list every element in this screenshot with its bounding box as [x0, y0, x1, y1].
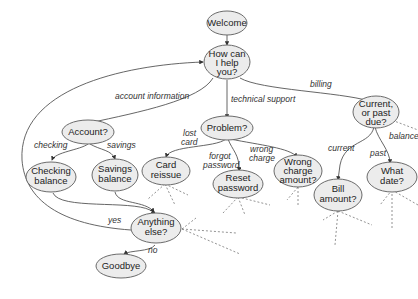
svg-text:account information: account information — [115, 91, 189, 101]
svg-text:Goodbye: Goodbye — [102, 260, 141, 271]
svg-text:amount?: amount? — [280, 174, 317, 185]
svg-text:checking: checking — [34, 140, 68, 150]
svg-text:savings: savings — [107, 140, 137, 150]
node-card-reissue: Card reissue — [142, 157, 190, 185]
svg-text:charge: charge — [249, 153, 275, 163]
svg-text:card: card — [181, 137, 198, 147]
svg-text:amount?: amount? — [320, 193, 357, 204]
node-anything-else: Anything else? — [131, 213, 181, 243]
svg-text:technical support: technical support — [231, 94, 296, 104]
svg-text:password: password — [202, 160, 240, 170]
svg-text:Problem?: Problem? — [207, 122, 248, 133]
svg-text:Account?: Account? — [68, 126, 108, 137]
node-bill-amount: Bill amount? — [314, 179, 362, 211]
svg-text:no: no — [148, 245, 158, 255]
node-goodbye: Goodbye — [96, 254, 146, 278]
node-account: Account? — [62, 120, 114, 144]
node-checking-balance: Checking balance — [26, 162, 76, 192]
svg-text:date?: date? — [380, 175, 404, 186]
node-problem: Problem? — [201, 116, 253, 140]
edge-checking-anything — [53, 193, 155, 213]
svg-text:yes: yes — [107, 215, 122, 225]
node-how-can-i-help: How can I help you? — [204, 45, 250, 79]
svg-text:password: password — [218, 182, 259, 193]
svg-text:due?: due? — [365, 116, 386, 127]
node-savings-balance: Savings balance — [92, 159, 138, 191]
svg-text:balance: balance — [34, 175, 67, 186]
svg-text:current: current — [328, 143, 355, 153]
svg-text:past: past — [369, 148, 387, 158]
node-reset-password: Reset password — [213, 170, 263, 198]
svg-text:you?: you? — [217, 66, 238, 77]
node-welcome: Welcome — [207, 11, 247, 35]
svg-text:billing: billing — [310, 79, 332, 89]
svg-text:Welcome: Welcome — [207, 17, 246, 28]
svg-text:balance: balance — [98, 173, 131, 184]
svg-text:else?: else? — [145, 226, 168, 237]
svg-text:balance: balance — [389, 131, 418, 141]
node-current-or-past-due: Current, or past due? — [353, 96, 399, 128]
node-wrong-charge-amount: Wrong charge amount? — [274, 155, 322, 187]
node-what-date: What date? — [367, 162, 417, 192]
svg-text:reissue: reissue — [151, 169, 182, 180]
dialogue-flow-diagram: account information technical support bi… — [0, 0, 418, 299]
